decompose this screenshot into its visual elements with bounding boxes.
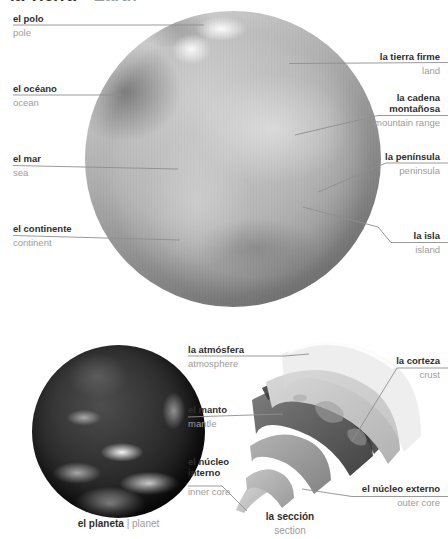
term-peninsula: la península xyxy=(385,152,440,163)
translation-cadena: mountain range xyxy=(374,118,440,129)
caption-planeta-translation: planet xyxy=(132,518,159,529)
wedge-surface-landmass xyxy=(315,401,344,423)
label-continente: el continente continent xyxy=(13,224,72,249)
caption-seccion-term: la sección xyxy=(266,511,314,522)
page-title-separator: · xyxy=(76,0,94,5)
label-corteza: la corteza crust xyxy=(396,356,440,381)
wedge-surface-map xyxy=(266,370,400,464)
term-nucleo-interno-line1: el núcleo xyxy=(188,457,230,468)
label-cadena-montanosa: la cadena montañosa mountain range xyxy=(374,93,440,128)
wedge-mantle xyxy=(252,387,373,476)
term-cadena-line1: la cadena xyxy=(374,93,440,104)
translation-mar: sea xyxy=(13,168,41,179)
term-manto: el manto xyxy=(188,405,227,416)
earth-relief-globe-image xyxy=(85,11,381,307)
wedge-surface-landmass xyxy=(293,395,307,402)
label-peninsula: la península peninsula xyxy=(385,152,440,177)
term-corteza: la corteza xyxy=(396,356,440,367)
label-atmosfera: la atmósfera atmosphere xyxy=(188,345,244,370)
visual-dictionary-page: la Tierra·Earth xyxy=(0,0,448,539)
caption-planeta: el planeta | planet xyxy=(32,518,205,529)
wedge-surface-landmass xyxy=(347,428,366,445)
wedge-inner-core xyxy=(236,478,269,513)
translation-oceano: ocean xyxy=(13,98,57,109)
caption-seccion-translation: section xyxy=(240,525,340,536)
wedge-inner-mid-layer xyxy=(246,469,294,508)
caption-planeta-term: el planeta xyxy=(78,518,124,529)
page-title-english: Earth xyxy=(94,0,137,5)
caption-seccion: la sección section xyxy=(240,511,340,536)
label-tierra-firme: la tierra firme land xyxy=(380,52,440,77)
page-title-spanish: la Tierra xyxy=(10,0,76,5)
wedge-atmosphere-highlight xyxy=(288,343,394,368)
translation-isla: island xyxy=(414,245,440,256)
page-title: la Tierra·Earth xyxy=(10,0,137,4)
term-polo: el polo xyxy=(13,14,44,25)
term-tierra-firme: la tierra firme xyxy=(380,52,440,63)
planet-photo-image xyxy=(32,345,205,518)
label-nucleo-externo: el núcleo externo outer core xyxy=(362,484,440,509)
translation-corteza: crust xyxy=(396,370,440,381)
translation-continente: continent xyxy=(13,238,72,249)
wedge-crust-edge xyxy=(262,376,382,454)
translation-nucleo-interno: inner core xyxy=(188,487,230,498)
translation-manto: mantle xyxy=(188,419,227,430)
translation-nucleo-externo: outer core xyxy=(362,498,440,509)
term-atmosfera: la atmósfera xyxy=(188,345,244,356)
term-cadena-line2: montañosa xyxy=(374,104,440,115)
label-nucleo-interno: el núcleo interno inner core xyxy=(188,457,230,498)
term-mar: el mar xyxy=(13,154,41,165)
translation-tierra-firme: land xyxy=(380,66,440,77)
translation-atmosfera: atmosphere xyxy=(188,359,244,370)
term-oceano: el océano xyxy=(13,84,57,95)
term-continente: el continente xyxy=(13,224,72,235)
label-manto: el manto mantle xyxy=(188,405,227,430)
label-isla: la isla island xyxy=(414,231,440,256)
translation-polo: pole xyxy=(13,28,44,39)
wedge-outer-core xyxy=(250,434,331,494)
label-oceano: el océano ocean xyxy=(13,84,57,109)
translation-peninsula: peninsula xyxy=(385,166,440,177)
term-nucleo-interno-line2: interno xyxy=(188,468,230,479)
label-polo: el polo pole xyxy=(13,14,44,39)
term-isla: la isla xyxy=(414,231,440,242)
label-mar: el mar sea xyxy=(13,154,41,179)
term-nucleo-externo: el núcleo externo xyxy=(362,484,440,495)
